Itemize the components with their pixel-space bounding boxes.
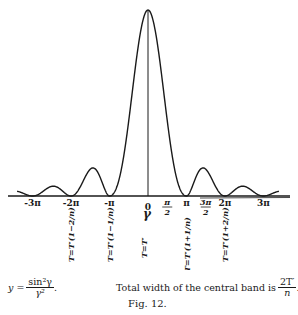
x-tick-label-denominator: 2 — [202, 207, 209, 217]
temperature-label: T=T′(1+1/n) — [182, 217, 192, 270]
x-tick-label: -π — [104, 198, 115, 208]
equation-caption: y = sin²γ γ² . — [8, 277, 57, 298]
equation-denominator: γ² — [35, 288, 45, 298]
x-tick-label: -2π — [63, 198, 80, 208]
x-tick-label: 2π — [219, 198, 232, 208]
figure-label: Fig. 12. — [128, 298, 167, 309]
axis-symbol-gamma: γ — [143, 207, 152, 221]
central-band-note: Total width of the central band is 2T′ n… — [116, 277, 298, 298]
note-text: Total width of the central band is — [116, 282, 276, 293]
temperature-label: T=T′(1−2/n) — [66, 207, 76, 262]
note-fraction: 2T′ n — [278, 277, 297, 298]
note-period: . — [296, 282, 298, 293]
x-tick-label: 3π — [257, 198, 270, 208]
x-tick-label: π — [183, 198, 190, 208]
equation-period: . — [54, 282, 57, 293]
x-axis-shadow — [200, 198, 290, 199]
note-denominator: n — [284, 288, 290, 298]
equation-fraction: sin²γ γ² — [26, 277, 54, 298]
equation-lhs: y = — [8, 282, 24, 293]
x-tick-label: -3π — [24, 198, 41, 208]
sinc-squared-plot: -3π-2π-π0π2π3π22π3π T=T′(1−2/n)T=T′(1−1/… — [0, 0, 298, 270]
x-tick-label-numerator: π — [163, 197, 170, 207]
temperature-label: T=T′ — [139, 236, 149, 258]
x-tick-label-numerator: 3π — [200, 197, 212, 207]
temperature-label: T=T′(1−1/n) — [105, 207, 115, 262]
x-tick-label-denominator: 2 — [163, 207, 170, 217]
temperature-label: T=T′(1+2/n) — [220, 207, 230, 262]
